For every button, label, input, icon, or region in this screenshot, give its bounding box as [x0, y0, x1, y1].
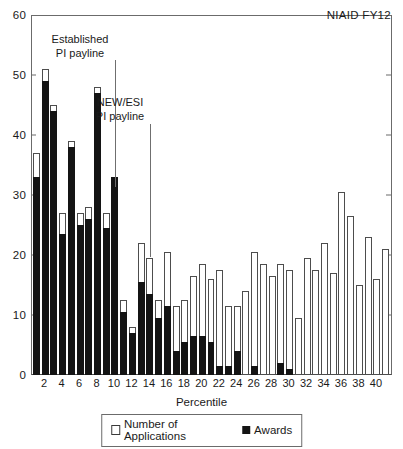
y-tick-label: 20 [0, 249, 26, 261]
bar-percentile-39 [365, 237, 372, 375]
x-tick-label: 32 [300, 377, 312, 389]
annotation-line-2: PI payline [96, 110, 144, 124]
awards-segment [120, 312, 127, 375]
y-tick-label: 40 [0, 129, 26, 141]
bar-percentile-27 [260, 264, 267, 375]
y-tick-label: 60 [0, 9, 26, 21]
x-tick-label: 8 [93, 377, 99, 389]
awards-segment [94, 93, 101, 375]
awards-segment [77, 225, 84, 375]
awards-segment [138, 282, 145, 375]
bar-percentile-20 [199, 264, 206, 375]
awards-segment [199, 336, 206, 375]
x-tick-label: 34 [317, 377, 329, 389]
x-tick-label: 24 [230, 377, 242, 389]
bar-percentile-11 [120, 300, 127, 375]
x-tick-label: 12 [125, 377, 137, 389]
bar-percentile-19 [190, 276, 197, 375]
bar-percentile-29 [277, 264, 284, 375]
x-tick-label: 2 [41, 377, 47, 389]
awards-segment [277, 363, 284, 375]
bar-percentile-14 [146, 258, 153, 375]
bar-percentile-3 [50, 105, 57, 375]
payline-marker-new-esi-payline [150, 124, 151, 257]
bar-percentile-38 [356, 285, 363, 375]
awards-segment [216, 366, 223, 375]
annotation-line-2: PI payline [52, 47, 109, 61]
bar-percentile-25 [242, 291, 249, 375]
awards-segment [173, 351, 180, 375]
bar-percentile-10 [111, 177, 118, 375]
bar-percentile-36 [338, 192, 345, 375]
open-square-icon [111, 425, 120, 435]
x-tick-label: 20 [195, 377, 207, 389]
bar-percentile-1 [33, 153, 40, 375]
awards-segment [181, 342, 188, 375]
bar-percentile-23 [225, 306, 232, 375]
bar-percentile-40 [373, 279, 380, 375]
bar-percentile-26 [251, 252, 258, 375]
bar-percentile-31 [295, 318, 302, 375]
awards-segment [59, 234, 66, 375]
awards-segment [111, 177, 118, 375]
awards-segment [103, 228, 110, 375]
x-tick-label: 16 [160, 377, 172, 389]
bar-percentile-17 [173, 306, 180, 375]
bar-percentile-4 [59, 213, 66, 375]
chart-root: NIAID FY12 0102030405060 246810121416182… [0, 0, 403, 449]
y-tick-label: 0 [0, 369, 26, 381]
bar-percentile-22 [216, 270, 223, 375]
awards-segment [129, 333, 136, 375]
bar-percentile-32 [304, 258, 311, 375]
awards-segment [251, 366, 258, 375]
y-tick-label: 50 [0, 69, 26, 81]
awards-segment [225, 366, 232, 375]
awards-segment [146, 294, 153, 375]
annotation-new-esi-payline: NEW/ESIPI payline [96, 96, 144, 123]
bar-percentile-21 [208, 279, 215, 375]
bar-percentile-24 [234, 306, 241, 375]
awards-segment [164, 306, 171, 375]
awards-segment [68, 147, 75, 375]
legend-item-applications: Number of Applications [111, 418, 229, 442]
bar-percentile-37 [347, 216, 354, 375]
legend-item-awards: Awards [242, 424, 292, 436]
annotation-line-1: NEW/ESI [96, 96, 144, 110]
plot-area [31, 15, 392, 375]
bar-percentile-12 [129, 327, 136, 375]
x-tick-label: 28 [265, 377, 277, 389]
legend-label-awards: Awards [254, 424, 292, 436]
awards-segment [155, 318, 162, 375]
awards-segment [42, 81, 49, 375]
x-tick-label: 38 [352, 377, 364, 389]
annotation-line-1: Established [52, 33, 109, 47]
x-tick-label: 6 [76, 377, 82, 389]
bar-percentile-7 [85, 207, 92, 375]
legend-label-applications: Number of Applications [124, 418, 229, 442]
bar-percentile-6 [77, 213, 84, 375]
filled-square-icon [242, 426, 250, 434]
awards-segment [33, 177, 40, 375]
bar-percentile-5 [68, 141, 75, 375]
y-tick-label: 10 [0, 309, 26, 321]
bar-percentile-30 [286, 270, 293, 375]
bar-percentile-8 [94, 87, 101, 375]
awards-segment [208, 342, 215, 375]
x-tick-label: 18 [178, 377, 190, 389]
bar-percentile-18 [181, 300, 188, 375]
bar-percentile-15 [155, 300, 162, 375]
chart-legend: Number of Applications Awards [101, 414, 303, 447]
y-tick-label: 30 [0, 189, 26, 201]
awards-segment [190, 336, 197, 375]
bar-percentile-28 [269, 276, 276, 375]
awards-segment [234, 351, 241, 375]
x-tick-label: 40 [370, 377, 382, 389]
bar-percentile-13 [138, 243, 145, 375]
bar-percentile-9 [103, 213, 110, 375]
bar-percentile-16 [164, 252, 171, 375]
bar-percentile-41 [382, 249, 389, 375]
awards-segment [286, 369, 293, 375]
bar-percentile-2 [42, 69, 49, 375]
x-tick-label: 10 [108, 377, 120, 389]
awards-segment [85, 219, 92, 375]
